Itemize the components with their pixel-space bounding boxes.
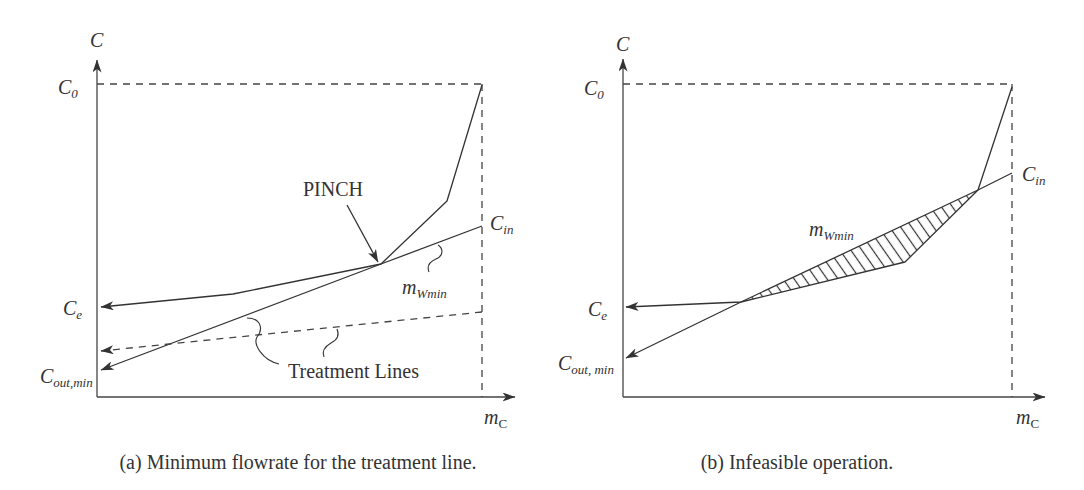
mwmin-brace: [428, 245, 442, 272]
treatment-brace-1: [247, 318, 279, 364]
cin-sub: in: [503, 222, 513, 237]
panel-b: C mC C0 Cin Ce Cout, min mWmin (b) Infea…: [558, 33, 1045, 474]
c0-label: C0: [58, 76, 78, 101]
ce-sub: e: [601, 308, 607, 323]
c0-sub: 0: [597, 87, 604, 102]
figure: PINCH Treatment Lines C mC C0 Cin Ce Cou…: [0, 0, 1084, 490]
c0-sub: 0: [71, 86, 78, 101]
cin-sub: in: [1035, 173, 1045, 188]
cout-min-label: Cout,min: [40, 365, 93, 390]
cin-label: Cin: [1022, 163, 1045, 188]
ce-label: Ce: [588, 298, 607, 323]
c0-main: C: [58, 76, 72, 98]
treatment-brace-2: [323, 329, 338, 357]
cin-label: Cin: [490, 212, 513, 237]
mwmin-label: mWmin: [809, 218, 854, 243]
cout-min-label: Cout, min: [558, 352, 614, 377]
y-axis-label: C: [616, 33, 630, 55]
caption-b: (b) Infeasible operation.: [701, 451, 894, 474]
x-axis-label: mC: [484, 406, 507, 431]
treatment-line-alt: [101, 312, 482, 351]
cin-main: C: [490, 212, 504, 234]
x-axis-label-sub: C: [498, 416, 507, 431]
c0-main: C: [584, 77, 598, 99]
mwmin-main: m: [809, 218, 823, 240]
mwmin-main: m: [402, 276, 416, 298]
ce-main: C: [63, 297, 77, 319]
mwmin-sub: Wmin: [416, 286, 446, 301]
x-axis-label-main: m: [1016, 406, 1030, 428]
cout-min-sub: out, min: [571, 362, 614, 377]
x-axis-label: mC: [1016, 406, 1039, 431]
treatment-line-min: [626, 173, 1012, 358]
x-axis-label-sub: C: [1030, 416, 1039, 431]
cin-main: C: [1022, 163, 1036, 185]
ce-sub: e: [76, 307, 82, 322]
panel-a: PINCH Treatment Lines C mC C0 Cin Ce Cou…: [40, 29, 515, 474]
y-axis-label: C: [90, 29, 104, 51]
pinch-label: PINCH: [303, 178, 363, 200]
ce-label: Ce: [63, 297, 82, 322]
pinch-arrow: [347, 205, 378, 262]
mwmin-sub: Wmin: [823, 228, 853, 243]
cout-min-sub: out,min: [53, 375, 92, 390]
c0-label: C0: [584, 77, 604, 102]
ce-main: C: [588, 298, 602, 320]
mwmin-label: mWmin: [402, 276, 447, 301]
cout-min-main: C: [558, 352, 572, 374]
x-axis-label-main: m: [484, 406, 498, 428]
composite-curve: [101, 85, 482, 307]
caption-a: (a) Minimum flowrate for the treatment l…: [119, 451, 476, 474]
treatment-lines-label: Treatment Lines: [288, 360, 419, 382]
cout-min-main: C: [40, 365, 54, 387]
